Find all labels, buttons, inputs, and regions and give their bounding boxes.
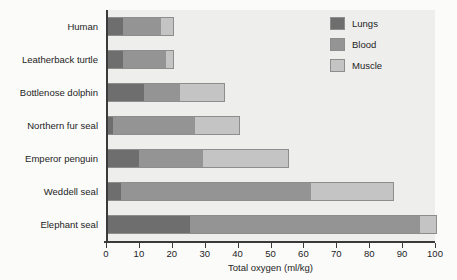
stacked-bar[interactable] bbox=[108, 116, 240, 135]
category-label: Bottlenose dolphin bbox=[0, 83, 98, 102]
legend-item-blood[interactable]: Blood bbox=[330, 35, 430, 53]
bar-segment-muscle[interactable] bbox=[420, 216, 436, 233]
bar-segment-muscle[interactable] bbox=[161, 18, 172, 35]
bar-segment-blood[interactable] bbox=[139, 150, 203, 167]
chart-figure: HumanLeatherback turtleBottlenose dolphi… bbox=[0, 0, 457, 280]
bar-segment-blood[interactable] bbox=[144, 84, 180, 101]
bar-row bbox=[108, 83, 435, 102]
legend-item-lungs[interactable]: Lungs bbox=[330, 14, 430, 32]
chart-legend: LungsBloodMuscle bbox=[330, 14, 430, 77]
bar-row bbox=[108, 149, 435, 168]
bar-segment-lungs[interactable] bbox=[108, 183, 121, 200]
category-label: Weddell seal bbox=[0, 182, 98, 201]
bar-row bbox=[108, 182, 435, 201]
legend-item-muscle[interactable]: Muscle bbox=[330, 56, 430, 74]
stacked-bar[interactable] bbox=[108, 50, 174, 69]
bar-segment-lungs[interactable] bbox=[108, 216, 190, 233]
bar-segment-lungs[interactable] bbox=[108, 150, 139, 167]
bar-segment-muscle[interactable] bbox=[203, 150, 288, 167]
bar-segment-lungs[interactable] bbox=[108, 84, 144, 101]
bar-segment-lungs[interactable] bbox=[108, 18, 123, 35]
stacked-bar[interactable] bbox=[108, 17, 174, 36]
category-label: Elephant seal bbox=[0, 215, 98, 234]
stacked-bar[interactable] bbox=[108, 83, 225, 102]
x-axis-title: Total oxygen (ml/kg) bbox=[106, 262, 435, 273]
bar-segment-blood[interactable] bbox=[113, 117, 195, 134]
x-axis-tick-labels: 0102030405060708090100 bbox=[0, 248, 457, 262]
stacked-bar[interactable] bbox=[108, 182, 394, 201]
bar-segment-blood[interactable] bbox=[123, 51, 167, 68]
legend-label: Lungs bbox=[352, 18, 378, 29]
bar-row bbox=[108, 215, 435, 234]
category-label: Human bbox=[0, 17, 98, 36]
muscle-swatch bbox=[330, 59, 345, 72]
category-label: Emperor penguin bbox=[0, 149, 98, 168]
blood-swatch bbox=[330, 38, 345, 51]
legend-label: Muscle bbox=[352, 60, 382, 71]
legend-label: Blood bbox=[352, 39, 376, 50]
bar-segment-muscle[interactable] bbox=[180, 84, 224, 101]
stacked-bar[interactable] bbox=[108, 215, 437, 234]
y-axis-labels: HumanLeatherback turtleBottlenose dolphi… bbox=[0, 10, 104, 241]
bar-segment-blood[interactable] bbox=[123, 18, 162, 35]
category-label: Northern fur seal bbox=[0, 116, 98, 135]
bar-segment-muscle[interactable] bbox=[166, 51, 172, 68]
x-tick-label: 100 bbox=[415, 248, 455, 259]
bar-segment-muscle[interactable] bbox=[311, 183, 393, 200]
bar-segment-blood[interactable] bbox=[121, 183, 311, 200]
bar-row bbox=[108, 116, 435, 135]
bar-segment-lungs[interactable] bbox=[108, 51, 123, 68]
bar-segment-muscle[interactable] bbox=[195, 117, 239, 134]
category-label: Leatherback turtle bbox=[0, 50, 98, 69]
stacked-bar[interactable] bbox=[108, 149, 289, 168]
bar-segment-blood[interactable] bbox=[190, 216, 420, 233]
lungs-swatch bbox=[330, 17, 345, 30]
